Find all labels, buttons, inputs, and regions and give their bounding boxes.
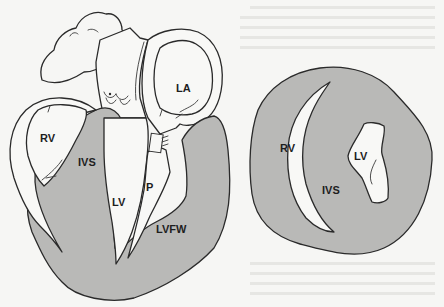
label-lv: LV bbox=[112, 196, 126, 208]
label-p: P bbox=[146, 181, 153, 193]
label-la: LA bbox=[176, 82, 191, 94]
label-short-axis-rv: RV bbox=[280, 142, 296, 154]
label-ivs: IVS bbox=[78, 156, 96, 168]
label-lvfw: LVFW bbox=[156, 223, 187, 235]
short-axis-section: RV LV IVS bbox=[250, 67, 432, 254]
label-rv: RV bbox=[40, 132, 56, 144]
label-short-axis-ivs: IVS bbox=[322, 184, 340, 196]
aorta-outline bbox=[96, 28, 148, 118]
long-axis-section: RV IVS LV P LA LVFW bbox=[10, 13, 230, 301]
short-axis-outer-wall bbox=[250, 67, 432, 254]
heart-diagram: RV IVS LV P LA LVFW RV LV IVS bbox=[0, 0, 444, 307]
label-short-axis-lv: LV bbox=[354, 150, 368, 162]
left-atrium-cavity bbox=[154, 41, 212, 115]
